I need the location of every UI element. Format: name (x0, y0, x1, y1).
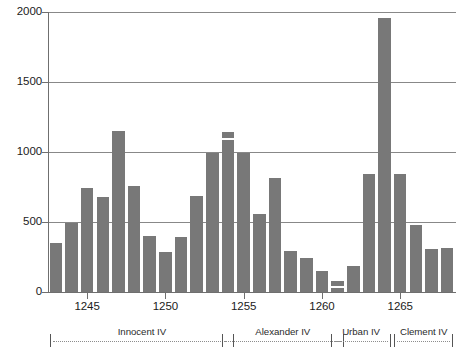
bar (50, 243, 63, 292)
bar (410, 225, 423, 292)
bar (425, 249, 438, 292)
bar (284, 251, 297, 292)
x-tick-mark (87, 293, 88, 299)
x-tick-mark (400, 293, 401, 299)
bar-chart: 0500100015002000 12451250125512601265 In… (0, 0, 472, 360)
bar (394, 174, 407, 292)
x-tick-label: 1265 (378, 300, 422, 312)
y-tick-label: 2000 (2, 5, 42, 17)
bar (316, 271, 329, 292)
bar-split-marker (222, 138, 235, 140)
reign-band: Innocent IV (50, 326, 235, 346)
reign-band-label: Innocent IV (50, 326, 235, 337)
bar (222, 132, 235, 292)
reign-band-label: Clement IV (394, 326, 453, 337)
bar (97, 197, 110, 292)
bar (378, 18, 391, 292)
bar (347, 266, 360, 292)
y-tick-label: 1000 (2, 145, 42, 157)
bar (253, 214, 266, 292)
x-tick-label: 1250 (143, 300, 187, 312)
y-tick-label: 500 (2, 215, 42, 227)
reign-band-label: Urban IV (331, 326, 390, 337)
x-tick-label: 1255 (222, 300, 266, 312)
reign-band: Clement IV (394, 326, 453, 346)
reign-band-rule (225, 341, 341, 342)
reign-band-rule (334, 341, 387, 342)
bar (112, 131, 125, 292)
x-tick-mark (244, 293, 245, 299)
bar (363, 174, 376, 292)
bar (441, 248, 454, 292)
reign-band: Alexander IV (222, 326, 344, 346)
reign-band-rule (53, 341, 232, 342)
bar (237, 153, 250, 292)
bar-split-marker (331, 286, 344, 288)
bar (269, 178, 282, 292)
bars-layer (48, 12, 455, 292)
bar (159, 252, 172, 292)
x-tick-mark (322, 293, 323, 299)
reign-band-label: Alexander IV (222, 326, 344, 337)
x-tick-label: 1245 (65, 300, 109, 312)
reign-band: Urban IV (331, 326, 390, 346)
reign-band-rule (397, 341, 450, 342)
bar (143, 236, 156, 292)
x-tick-mark (165, 293, 166, 299)
bar (300, 258, 313, 292)
bar (65, 223, 78, 292)
y-tick-label: 1500 (2, 75, 42, 87)
bar (81, 188, 94, 292)
bar (175, 237, 188, 292)
bar (190, 196, 203, 292)
x-tick-label: 1260 (300, 300, 344, 312)
bar (206, 153, 219, 292)
y-tick-label: 0 (2, 285, 42, 297)
bar (128, 186, 141, 292)
